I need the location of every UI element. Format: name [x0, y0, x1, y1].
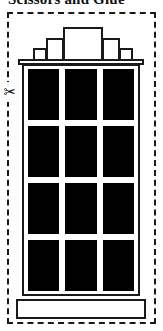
roof-step-center — [63, 27, 103, 63]
window-r3-c1 — [28, 183, 59, 234]
window-r4-c1 — [28, 240, 59, 291]
window-r2-c1 — [28, 126, 59, 177]
window-grid — [28, 69, 134, 291]
window-r2-c3 — [103, 126, 134, 177]
window-r4-c2 — [65, 240, 96, 291]
window-r1-c2 — [65, 69, 96, 120]
window-r1-c1 — [28, 69, 59, 120]
window-r2-c2 — [65, 126, 96, 177]
foundation-slab — [16, 299, 146, 319]
worksheet-page: Scissors and Glue ✂ — [0, 0, 163, 331]
window-r3-c3 — [103, 183, 134, 234]
window-r3-c2 — [65, 183, 96, 234]
window-r1-c3 — [103, 69, 134, 120]
building-illustration — [0, 0, 163, 331]
window-r4-c3 — [103, 240, 134, 291]
